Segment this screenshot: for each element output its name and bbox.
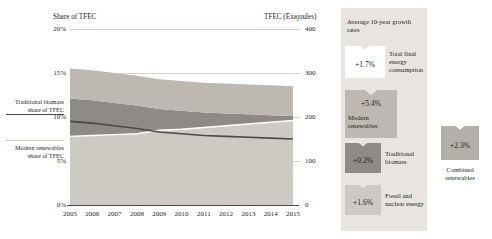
chart-page: Share of TFEC TFEC (Exajoules) 20% 15% 1… bbox=[0, 0, 492, 239]
callout-modern-renewables-rule bbox=[6, 140, 64, 141]
combined-renewables: +2.3% Combined renewables bbox=[434, 126, 486, 182]
legend-badge-fossil-nuclear: +1.6% bbox=[345, 185, 381, 215]
chart-area: Share of TFEC TFEC (Exajoules) 20% 15% 1… bbox=[0, 0, 336, 239]
legend-label-modern-renewables: Modern renewables bbox=[348, 114, 394, 130]
ytick-right-0: 0 bbox=[305, 201, 309, 209]
axis-baseline bbox=[67, 205, 299, 206]
left-axis-title: Share of TFEC bbox=[53, 13, 96, 21]
trend-lines bbox=[70, 29, 293, 205]
xtick-2015: 2015 bbox=[286, 210, 300, 218]
combined-renewables-label: Combined renewables bbox=[434, 166, 486, 182]
legend-heading: Average 10-year growth rates bbox=[347, 18, 423, 34]
xtick-2012: 2012 bbox=[219, 210, 233, 218]
ytick-right-400: 400 bbox=[305, 25, 316, 33]
callout-modern-renewables-label: Modern renewables share of TFEC bbox=[6, 144, 64, 159]
legend-value-fossil-nuclear: +1.6% bbox=[353, 198, 373, 207]
callout-modern-renewables: Modern renewables share of TFEC bbox=[6, 140, 64, 159]
tick-stub-100 bbox=[293, 161, 301, 162]
legend-badge-modern-renewables: +5.4% Modern renewables bbox=[345, 90, 397, 138]
legend-value-traditional-biomass: +0.2% bbox=[353, 156, 373, 165]
legend-item-traditional-biomass: +0.2% Traditional biomass bbox=[345, 143, 425, 173]
xtick-2014: 2014 bbox=[264, 210, 278, 218]
xtick-2009: 2009 bbox=[152, 210, 166, 218]
combined-renewables-badge: +2.3% bbox=[441, 126, 479, 160]
xtick-2013: 2013 bbox=[241, 210, 255, 218]
xtick-2011: 2011 bbox=[197, 210, 211, 218]
line-traditional-biomass bbox=[70, 121, 293, 139]
legend-panel: Average 10-year growth rates +1.7% Total… bbox=[341, 8, 427, 231]
legend-value-tfec: +1.7% bbox=[355, 60, 375, 69]
xtick-2010: 2010 bbox=[175, 210, 189, 218]
right-axis-title: TFEC (Exajoules) bbox=[264, 13, 317, 21]
callout-traditional-biomass: Traditional biomass share of TFEC bbox=[6, 98, 64, 115]
plot-region: 20% 15% 10% 5% 0% 400 300 200 100 0 bbox=[70, 29, 293, 205]
callout-traditional-biomass-rule bbox=[6, 114, 64, 115]
xtick-2008: 2008 bbox=[130, 210, 144, 218]
ytick-left-15: 15% bbox=[53, 69, 66, 77]
legend-item-modern-renewables: +5.4% Modern renewables bbox=[345, 90, 397, 138]
ytick-left-20: 20% bbox=[53, 25, 66, 33]
legend-label-traditional-biomass: Traditional biomass bbox=[385, 150, 425, 166]
legend-badge-traditional-biomass: +0.2% bbox=[345, 143, 381, 173]
ytick-right-100: 100 bbox=[305, 157, 316, 165]
xtick-2006: 2006 bbox=[85, 210, 99, 218]
combined-renewables-value: +2.3% bbox=[450, 141, 470, 150]
ytick-left-0: 0% bbox=[57, 201, 66, 209]
xtick-2007: 2007 bbox=[108, 210, 122, 218]
lines-svg bbox=[70, 29, 293, 205]
tick-stub-400 bbox=[293, 29, 301, 30]
legend-label-tfec: Total final energy consumption bbox=[389, 50, 429, 74]
ytick-right-300: 300 bbox=[305, 69, 316, 77]
tick-stub-300 bbox=[293, 73, 301, 74]
legend-item-fossil-nuclear-energy: +1.6% Fossil and nuclear energy bbox=[345, 185, 425, 215]
xtick-2005: 2005 bbox=[63, 210, 77, 218]
tick-stub-200 bbox=[293, 117, 301, 118]
legend-label-fossil-nuclear: Fossil and nuclear energy bbox=[385, 192, 425, 208]
legend-item-total-final-energy-consumption: +1.7% Total final energy consumption bbox=[345, 46, 429, 78]
legend-value-modern-renewables: +5.4% bbox=[345, 99, 397, 108]
callout-traditional-biomass-label: Traditional biomass share of TFEC bbox=[6, 98, 64, 113]
legend-badge-tfec: +1.7% bbox=[345, 46, 385, 78]
ytick-right-200: 200 bbox=[305, 113, 316, 121]
